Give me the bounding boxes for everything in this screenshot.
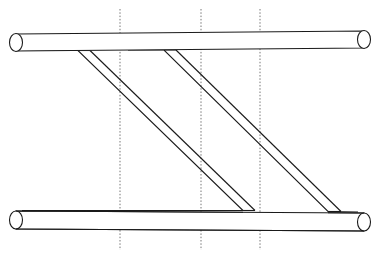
- bottom-chord-pipe-right-cap: [358, 213, 371, 231]
- bottom-chord-pipe: [10, 211, 371, 231]
- top-chord-pipe-left-cap: [10, 34, 23, 52]
- bottom-chord-pipe-left-cap: [10, 211, 23, 229]
- top-chord-pipe-right-cap: [358, 31, 371, 49]
- frame-diagram: [0, 0, 376, 254]
- top-chord-pipe-body: [16, 31, 364, 51]
- figure-root: [0, 0, 376, 254]
- top-chord-pipe: [10, 31, 371, 52]
- bottom-chord-pipe-body: [16, 211, 364, 231]
